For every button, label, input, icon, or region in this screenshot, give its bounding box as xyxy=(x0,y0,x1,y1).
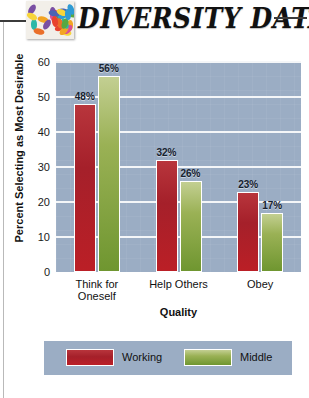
figure-caption xyxy=(22,386,309,398)
bar-working-2 xyxy=(237,192,259,273)
legend-label: Middle xyxy=(240,350,272,365)
x-axis-label: Quality xyxy=(56,306,301,318)
y-axis-label: Percent Selecting as Most Desirable xyxy=(11,33,27,263)
bar-middle-2 xyxy=(261,213,283,273)
bar-value-label: 48% xyxy=(71,91,99,102)
legend-swatch-middle xyxy=(184,349,232,366)
bar-value-label: 17% xyxy=(258,200,286,211)
y-tick-label: 20 xyxy=(20,197,50,207)
bar-value-label: 26% xyxy=(177,168,205,179)
bar-working-1 xyxy=(156,160,178,272)
confetti-pills-logo-icon xyxy=(26,1,74,39)
bar-chart: Percent Selecting as Most Desirable 48%5… xyxy=(0,44,309,334)
y-tick-label: 30 xyxy=(20,162,50,172)
y-tick-label: 0 xyxy=(20,267,50,277)
y-tick-label: 10 xyxy=(20,232,50,242)
legend-swatch-working xyxy=(66,349,114,366)
bar-value-label: 23% xyxy=(234,179,262,190)
header-rule-right xyxy=(274,17,307,19)
x-tick-label: Obey xyxy=(217,278,303,290)
page-title: DIVERSITY DATA xyxy=(78,1,274,38)
x-tick-label: Help Others xyxy=(136,278,222,290)
gridline xyxy=(56,61,301,63)
legend-label: Working xyxy=(122,350,162,365)
bar-value-label: 56% xyxy=(95,63,123,74)
bar-working-0 xyxy=(74,104,96,272)
x-tick-label: Think forOneself xyxy=(54,278,140,302)
y-tick-label: 50 xyxy=(20,92,50,102)
y-tick-label: 40 xyxy=(20,127,50,137)
plot-area: 48%56%32%26%23%17% xyxy=(56,62,301,272)
page-header: DIVERSITY DATA xyxy=(0,0,309,42)
bar-value-label: 32% xyxy=(153,147,181,158)
bar-middle-1 xyxy=(180,181,202,272)
chart-legend: WorkingMiddle xyxy=(44,341,292,375)
bar-middle-0 xyxy=(98,76,120,272)
y-tick-label: 60 xyxy=(20,57,50,67)
